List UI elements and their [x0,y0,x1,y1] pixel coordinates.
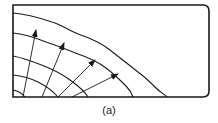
ray-3-arrow-icon [58,60,95,97]
figure-caption: (a) [0,104,218,116]
ray-2-arrow-icon [42,43,64,97]
ray-1-arrow-icon [23,30,36,97]
ray-4-arrow-icon [72,74,118,97]
wavefront-4 [13,75,58,97]
wavefront-1 [13,13,167,97]
wavefront-curves [13,13,167,97]
wavefront-2 [13,33,133,97]
wave-propagation-diagram: (a) [0,0,218,123]
